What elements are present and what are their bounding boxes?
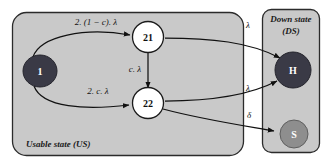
state-transition-diagram: Usable state (US) Down state (DS) 2. (1 … [0,0,326,168]
edge-21-to-22-label: c. λ [129,64,141,74]
edge-22-to-h-label: λ [245,83,250,93]
node-1[interactable]: 1 [23,55,57,87]
node-21-label: 21 [143,32,153,43]
node-h-label: H [289,65,297,76]
diagram-canvas: Usable state (US) Down state (DS) 2. (1 … [0,0,326,168]
node-h[interactable]: H [275,52,311,88]
node-22[interactable]: 22 [133,88,164,119]
usable-state-label: Usable state (US) [26,139,91,149]
edge-1-to-21-label: 2. (1 − c). λ [75,17,118,27]
edge-22-to-s-label: δ [247,110,252,120]
node-21[interactable]: 21 [133,22,164,53]
edge-21-to-h-label: λ [245,20,250,30]
node-s-label: S [291,129,297,140]
edge-1-to-22-label: 2. c. λ [87,86,108,96]
down-state-label-line2: (DS) [282,26,300,36]
node-s[interactable]: S [280,120,308,148]
node-1-label: 1 [38,66,43,77]
node-22-label: 22 [143,98,153,109]
down-state-label-line1: Down state [269,14,311,24]
